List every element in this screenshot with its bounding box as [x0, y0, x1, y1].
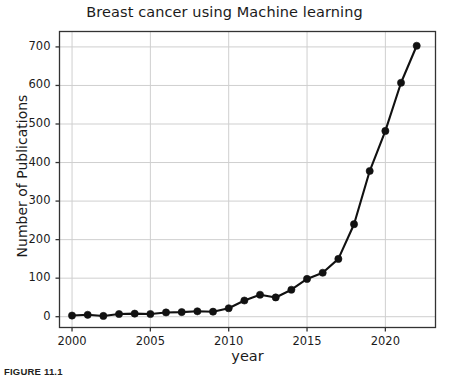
x-tick-label: 2005: [130, 334, 170, 348]
plot-frame: [60, 32, 436, 328]
figure-container: Breast cancer using Machine learning Num…: [0, 0, 449, 384]
publications-line: [72, 46, 417, 316]
y-tick-label: 500: [19, 116, 51, 130]
x-tick-label: 2020: [365, 334, 405, 348]
y-tick-label: 0: [19, 309, 51, 323]
y-tick-label: 100: [19, 270, 51, 284]
y-tick-label: 600: [19, 77, 51, 91]
grid-lines: [60, 32, 436, 328]
figure-caption: FIGURE 11.1: [4, 366, 63, 377]
y-tick-label: 300: [19, 193, 51, 207]
x-tick-label: 2000: [52, 334, 92, 348]
y-tick-label: 700: [19, 39, 51, 53]
axis-tick-marks: [56, 47, 386, 332]
x-tick-label: 2015: [287, 334, 327, 348]
x-tick-label: 2010: [209, 334, 249, 348]
line-chart-plot: [0, 0, 449, 384]
y-tick-label: 200: [19, 232, 51, 246]
y-tick-label: 400: [19, 155, 51, 169]
